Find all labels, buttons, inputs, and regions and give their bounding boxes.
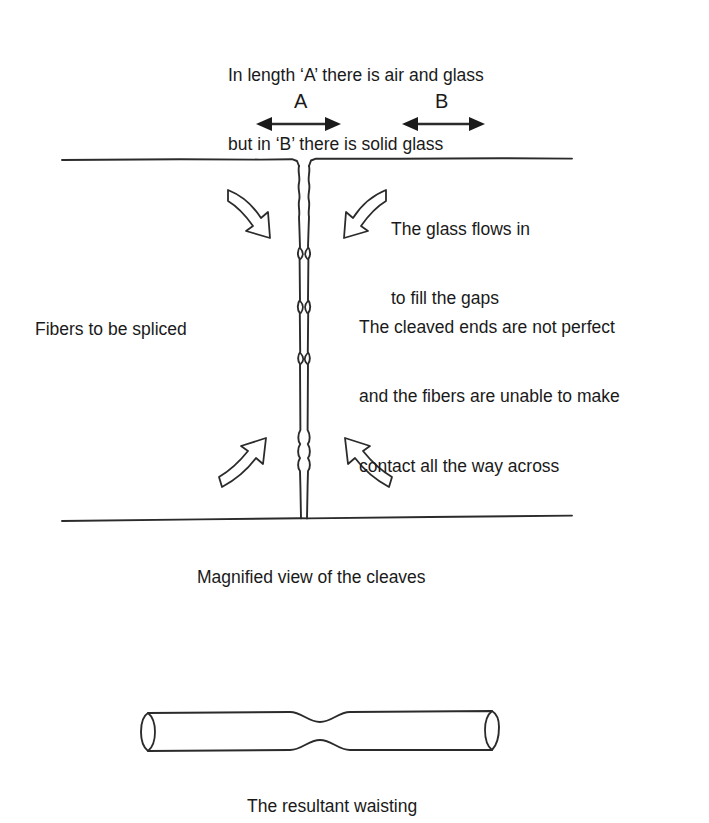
header-note-line2: but in ‘B’ there is solid glass <box>228 133 484 156</box>
waisted-fiber-outline <box>141 711 499 751</box>
fiber-splice-diagram: In length ‘A’ there is air and glass but… <box>0 0 709 823</box>
air-gap-voids <box>300 248 308 364</box>
cleave-face-left <box>298 166 301 518</box>
flow-arrow-lower-left <box>219 438 266 487</box>
annotation-cleaved-ends: The cleaved ends are not perfect and the… <box>359 270 620 524</box>
caption-resultant-waisting: The resultant waisting <box>247 795 417 818</box>
cleaved-ends-line3: contact all the way across <box>359 455 620 478</box>
span-label-b: B <box>435 88 448 114</box>
cleaved-ends-line2: and the fibers are unable to make <box>359 385 620 408</box>
span-label-a: A <box>294 88 307 114</box>
caption-magnified-view: Magnified view of the cleaves <box>197 566 426 589</box>
header-note-line1: In length ‘A’ there is air and glass <box>228 64 484 87</box>
cleave-face-right <box>307 166 310 518</box>
annotation-fibers-to-be-spliced: Fibers to be spliced <box>35 318 187 341</box>
glass-flows-line1: The glass flows in <box>391 218 530 241</box>
cleaved-ends-line1: The cleaved ends are not perfect <box>359 316 620 339</box>
